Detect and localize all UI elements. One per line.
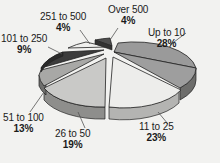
label-11-to-25: 11 to 25 23% [139,122,174,143]
pie-chart: Up to 10 28% 11 to 25 23% 26 to 50 19% 5… [0,0,220,163]
leader-over-500 [110,28,118,40]
label-up-to-10-percent: 28% [148,39,185,50]
label-26-to-50-category: 26 to 50 [55,129,90,140]
label-over-500: Over 500 4% [108,5,148,26]
label-51-to-100: 51 to 100 13% [3,113,44,134]
label-11-to-25-category: 11 to 25 [139,122,174,133]
label-251-to-500-category: 251 to 500 [40,12,86,23]
label-101-to-250: 101 to 250 9% [1,34,47,55]
label-11-to-25-percent: 23% [139,133,174,144]
label-up-to-10-category: Up to 10 [148,28,185,39]
label-over-500-percent: 4% [108,16,148,27]
leader-51-to-100 [30,92,44,112]
label-251-to-500-percent: 4% [40,23,86,34]
label-26-to-50-percent: 19% [55,140,90,151]
label-over-500-category: Over 500 [108,5,148,16]
label-up-to-10: Up to 10 28% [148,28,185,49]
label-101-to-250-percent: 9% [1,45,47,56]
label-101-to-250-category: 101 to 250 [1,34,47,45]
label-51-to-100-percent: 13% [3,124,44,135]
leader-101-to-250 [48,47,62,54]
label-251-to-500: 251 to 500 4% [40,12,86,33]
label-26-to-50: 26 to 50 19% [55,129,90,150]
label-51-to-100-category: 51 to 100 [3,113,44,124]
